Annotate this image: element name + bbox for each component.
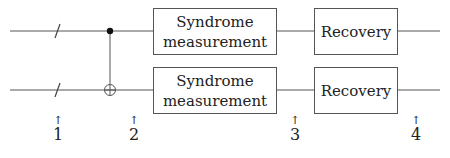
marker-label: 3: [285, 126, 305, 144]
syndrome-label-line2: measurement: [163, 91, 267, 111]
marker-label: 4: [406, 126, 426, 144]
marker-label: 2: [124, 126, 144, 144]
recovery-box-bottom: Recovery: [314, 67, 398, 114]
recovery-label: Recovery: [321, 22, 392, 42]
syndrome-label-line1: Syndrome: [163, 71, 267, 91]
syndrome-measurement-box-top: Syndrome measurement: [153, 8, 277, 55]
syndrome-label-line2: measurement: [163, 32, 267, 52]
syndrome-measurement-box-bottom: Syndrome measurement: [153, 67, 277, 114]
syndrome-label-line1: Syndrome: [163, 12, 267, 32]
time-marker-3: ↑ 3: [285, 116, 305, 144]
time-marker-1: ↑ 1: [48, 116, 68, 144]
recovery-box-top: Recovery: [314, 8, 398, 55]
time-marker-4: ↑ 4: [406, 116, 426, 144]
marker-label: 1: [48, 126, 68, 144]
time-marker-2: ↑ 2: [124, 116, 144, 144]
cnot-control-dot-icon: [107, 28, 113, 34]
recovery-label: Recovery: [321, 81, 392, 101]
circuit-diagram: Syndrome measurement Syndrome measuremen…: [0, 0, 450, 158]
